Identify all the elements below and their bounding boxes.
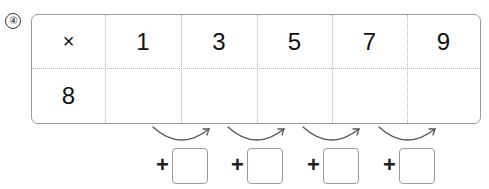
curved-arrow-icon [303,127,359,140]
plus-sign: + [231,154,244,176]
curved-arrow-icon [379,127,435,140]
plus-sign: + [383,154,396,176]
plus-sign: + [156,154,169,176]
curved-arrow-icon [153,127,209,140]
step-answer-box[interactable] [172,148,208,184]
step-answer-box[interactable] [399,148,435,184]
curved-arrow-icon [228,127,284,140]
step-answer-box[interactable] [323,148,359,184]
plus-sign: + [307,154,320,176]
step-answer-box[interactable] [247,148,283,184]
